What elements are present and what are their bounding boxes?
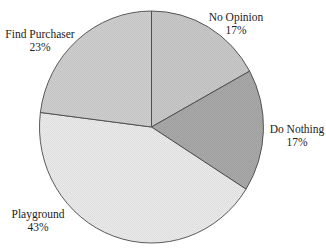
label-find-purchaser-name: Find Purchaser bbox=[0, 28, 80, 41]
label-find-purchaser: Find Purchaser 23% bbox=[0, 28, 80, 54]
label-find-purchaser-pct: 23% bbox=[0, 41, 80, 54]
label-no-opinion-name: No Opinion bbox=[198, 11, 274, 24]
label-do-nothing: Do Nothing 17% bbox=[266, 123, 326, 149]
label-no-opinion-pct: 17% bbox=[198, 24, 274, 37]
label-do-nothing-name: Do Nothing bbox=[266, 123, 326, 136]
label-playground-name: Playground bbox=[4, 208, 72, 221]
label-no-opinion: No Opinion 17% bbox=[198, 11, 274, 37]
label-playground: Playground 43% bbox=[4, 208, 72, 234]
label-playground-pct: 43% bbox=[4, 221, 72, 234]
label-do-nothing-pct: 17% bbox=[266, 136, 326, 149]
